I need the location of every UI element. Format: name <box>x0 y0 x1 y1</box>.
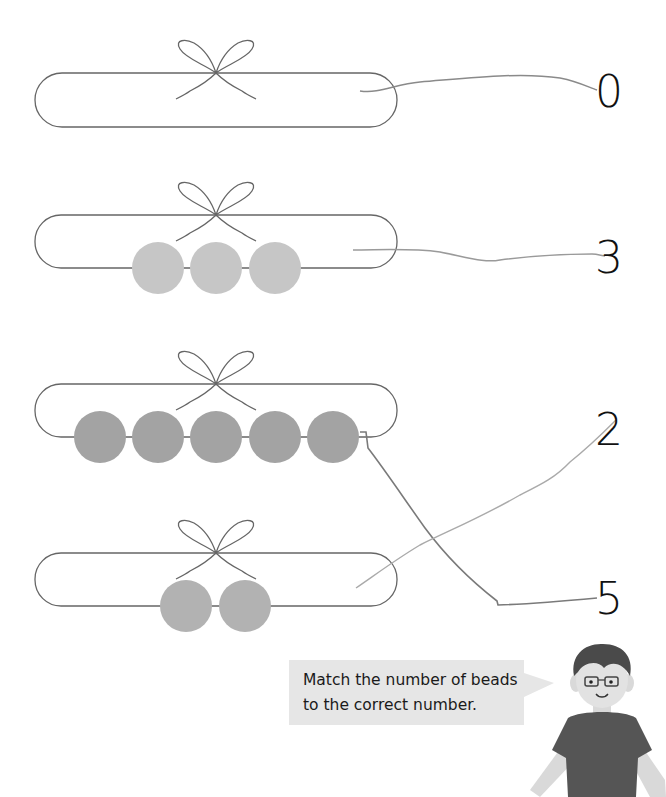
bead <box>249 242 301 294</box>
bead-ring-3 <box>35 352 397 463</box>
instruction-text: Match the number of beads to the correct… <box>303 668 518 718</box>
speech-bubble-tail <box>524 673 554 697</box>
number-target-0[interactable]: 0 <box>589 70 629 114</box>
bead <box>190 411 242 463</box>
bead <box>132 242 184 294</box>
instruction-line-2: to the correct number. <box>303 693 518 718</box>
bead <box>132 411 184 463</box>
bow-icon <box>176 41 256 99</box>
match-line-ring1-to-0 <box>360 75 597 91</box>
bead <box>249 411 301 463</box>
bow-icon <box>176 183 256 241</box>
bead <box>190 242 242 294</box>
character-illustration <box>530 644 666 797</box>
bead <box>74 411 126 463</box>
number-target-5[interactable]: 5 <box>589 577 629 621</box>
bead <box>160 580 212 632</box>
number-target-2[interactable]: 2 <box>589 408 629 452</box>
bow-icon <box>176 352 256 410</box>
bead-ring-4 <box>35 521 397 632</box>
bow-icon <box>176 521 256 579</box>
instruction-line-1: Match the number of beads <box>303 668 518 693</box>
match-line-ring4-to-2 <box>356 420 616 588</box>
bead-ring-1 <box>35 41 397 127</box>
bead <box>307 411 359 463</box>
bead <box>219 580 271 632</box>
match-line-ring3-to-5 <box>360 432 597 605</box>
number-target-3[interactable]: 3 <box>589 236 629 280</box>
bead-ring-2 <box>35 183 397 294</box>
